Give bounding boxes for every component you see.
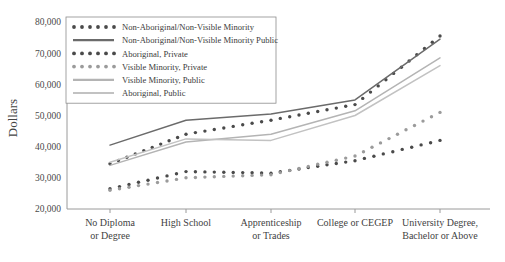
legend-swatch-dot [72, 65, 76, 69]
chart-legend: Non-Aboriginal/Non-Visible MinorityNon-A… [66, 17, 278, 103]
series-dot [232, 174, 235, 177]
series-dot [438, 139, 441, 142]
series-dot [288, 115, 291, 118]
series-dot [279, 117, 282, 120]
series-dot [353, 159, 356, 162]
series-dot [438, 111, 441, 114]
series-dot [307, 165, 310, 168]
legend-swatch-dot [88, 52, 92, 56]
x-axis: No Diplomaor DegreeHigh SchoolApprentice… [67, 209, 490, 241]
series-dot [213, 175, 216, 178]
legend-swatch-dot [72, 52, 76, 56]
y-tick-label: 50,000 [35, 111, 61, 121]
legend-swatch-dot [96, 65, 100, 69]
series-dot [370, 146, 373, 149]
legend-swatch-dot [72, 25, 76, 29]
series-dot [250, 174, 253, 177]
series-dot [184, 170, 187, 173]
y-tick-label: 40,000 [35, 142, 61, 152]
legend-swatch-dot [88, 65, 92, 69]
series-dot [419, 143, 422, 146]
legend-swatch-dot [104, 25, 108, 29]
series-dot [269, 119, 272, 122]
series-dot [421, 119, 424, 122]
legend-label: Non-Aboriginal/Non-Visible Minority [122, 22, 255, 32]
series-dot [396, 133, 399, 136]
x-tick-label: High School [161, 217, 212, 228]
series-dot [213, 128, 216, 131]
legend-label: Visible Minority, Private [122, 62, 207, 72]
series-dot [127, 186, 130, 189]
series-dot [344, 156, 347, 159]
legend-swatch-dot [80, 65, 84, 69]
series-dot [203, 129, 206, 132]
series-dot [344, 160, 347, 163]
chart-container: 20,00030,00040,00050,00060,00070,00080,0… [0, 0, 505, 262]
y-tick-label: 70,000 [35, 49, 61, 59]
series-dot [146, 179, 149, 182]
legend-swatch-dot [112, 52, 116, 56]
y-tick-label: 20,000 [35, 204, 61, 214]
series-dot [307, 112, 310, 115]
legend-swatch-dot [80, 25, 84, 29]
series-dot [176, 136, 179, 139]
series-dot [137, 181, 140, 184]
y-axis: 20,00030,00040,00050,00060,00070,00080,0… [35, 17, 67, 214]
series-dot [222, 171, 225, 174]
series-dot [203, 175, 206, 178]
y-tick-label: 60,000 [35, 80, 61, 90]
x-tick-label: Bachelor or Above [402, 230, 478, 241]
legend-swatch-dot [96, 25, 100, 29]
legend-label: Aboriginal, Public [122, 88, 186, 98]
legend-swatch-dot [112, 25, 116, 29]
series-dot [194, 170, 197, 173]
series-dot [391, 150, 394, 153]
series-dot [222, 126, 225, 129]
series-dot [260, 173, 263, 176]
series-dot [241, 171, 244, 174]
series-dot [156, 181, 159, 184]
series-dot [137, 184, 140, 187]
series-dot [146, 182, 149, 185]
series-dot [372, 155, 375, 158]
series-dot [241, 174, 244, 177]
series-dot [353, 154, 356, 157]
series-dot [413, 124, 416, 127]
series-dot [175, 178, 178, 181]
legend-swatch-dot [96, 52, 100, 56]
series-dot [165, 179, 168, 182]
line-chart: 20,00030,00040,00050,00060,00070,00080,0… [0, 0, 505, 262]
legend-swatch-dot [104, 52, 108, 56]
series-dot [325, 108, 328, 111]
series-dot [344, 105, 347, 108]
series-dot [222, 175, 225, 178]
series-dot [363, 157, 366, 160]
series-dot [175, 172, 178, 175]
series-dot [167, 139, 170, 142]
series-dot [335, 159, 338, 162]
series-dot [232, 171, 235, 174]
legend-label: Visible Minority, Public [122, 75, 205, 85]
y-tick-label: 30,000 [35, 173, 61, 183]
series-dot [429, 141, 432, 144]
series-dot [438, 34, 441, 37]
series-dot [184, 176, 187, 179]
series-dot [232, 125, 235, 128]
x-tick-label: University Degree, [402, 217, 478, 228]
series-dot [108, 189, 111, 192]
series-dot [325, 161, 328, 164]
legend-swatch-dot [80, 52, 84, 56]
series-dot [194, 176, 197, 179]
y-tick-label: 80,000 [35, 17, 61, 27]
legend-label: Aboriginal, Private [122, 49, 188, 59]
legend-swatch-dot [112, 65, 116, 69]
series-dot [156, 176, 159, 179]
legend-swatch-dot [104, 65, 108, 69]
x-tick-label: or Degree [90, 230, 130, 241]
x-tick-label: Apprenticeship [240, 217, 301, 228]
series-dot [316, 163, 319, 166]
series-dot [279, 171, 282, 174]
series-dot [260, 120, 263, 123]
series-dot [335, 162, 338, 165]
series-dot [297, 113, 300, 116]
